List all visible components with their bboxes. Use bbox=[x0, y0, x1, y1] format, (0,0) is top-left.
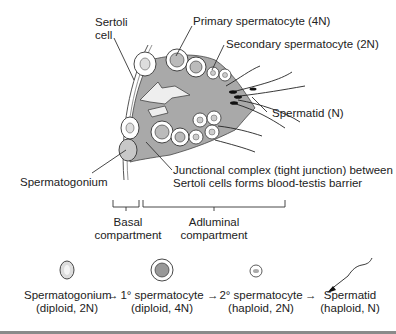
spermatid-label: Spermatid (N) bbox=[272, 107, 344, 120]
spermatogonium-label: Spermatogonium bbox=[20, 176, 108, 189]
primary-spermatocyte-label: Primary spermatocyte (4N) bbox=[193, 15, 330, 28]
spermatogonium-cell bbox=[119, 139, 137, 161]
compartment-brackets bbox=[113, 200, 285, 211]
sertoli-leader bbox=[114, 38, 134, 80]
secondary-spermatocyte-label: Secondary spermatocyte (2N) bbox=[226, 38, 379, 51]
junctional-complex-label: Junctional complex (tight junction) betw… bbox=[173, 164, 393, 190]
spermatid-leader bbox=[252, 97, 267, 112]
adluminal-compartment-label: Adluminal compartment bbox=[176, 216, 252, 242]
sequence-secondary-spermatocyte: 2° spermatocyte (haploid, 2N) bbox=[217, 289, 305, 315]
spermatogonium-leader bbox=[92, 150, 126, 173]
basal-compartment-label: Basal compartment bbox=[90, 216, 166, 242]
sequence-arrow-1: → bbox=[107, 289, 119, 302]
sequence-spermatogonium: Spermatogonium (diploid, 2N) bbox=[24, 289, 110, 315]
sequence-spermatid: Spermatid (haploid, N) bbox=[314, 289, 386, 315]
sertoli-cell-label: Sertoli cell bbox=[95, 16, 128, 42]
spermatid-icon bbox=[330, 258, 372, 290]
sequence-primary-spermatocyte: 1° spermatocyte (diploid, 4N) bbox=[119, 289, 205, 315]
